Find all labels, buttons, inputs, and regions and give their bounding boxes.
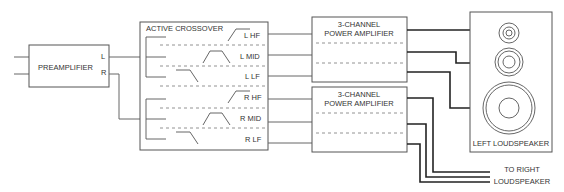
preamplifier-block: PREAMPLIFIER L R <box>29 45 109 87</box>
left-loudspeaker: LEFT LOUDSPEAKER <box>470 12 552 152</box>
amp2-line1: 3-CHANNEL <box>338 90 381 99</box>
crossover-out-rmid: R MID <box>240 114 262 123</box>
amp2-line2: POWER AMPLIFIER <box>324 99 394 108</box>
crossover-out-llf: L LF <box>245 72 260 81</box>
crossover-out-lmid: L MID <box>240 52 260 61</box>
crossover-to-amp-wires <box>268 34 312 143</box>
crossover-out-rhf: R HF <box>244 93 262 102</box>
loudspeaker-label: LEFT LOUDSPEAKER <box>473 139 550 148</box>
right-loudspeaker-note: TO RIGHT LOUDSPEAKER <box>494 165 551 186</box>
speaker-wires-left <box>407 30 470 108</box>
note-line1: TO RIGHT <box>504 165 540 174</box>
crossover-title: ACTIVE CROSSOVER <box>146 24 224 33</box>
power-amplifier-right: 3-CHANNEL POWER AMPLIFIER <box>312 87 407 152</box>
active-crossover-block: ACTIVE CROSSOVER L HF L MID L LF R HF R … <box>140 22 268 150</box>
crossover-out-rlf: R LF <box>245 135 262 144</box>
woofer-driver-icon <box>483 82 535 134</box>
preamplifier-label: PREAMPLIFIER <box>38 63 94 72</box>
amp1-line2: POWER AMPLIFIER <box>324 29 394 38</box>
crossover-out-lhf: L HF <box>244 31 260 40</box>
midrange-driver-icon <box>495 48 523 76</box>
preamp-out-left: L <box>101 52 105 61</box>
signal-chain-diagram: PREAMPLIFIER L R ACTIVE CROSSOVER <box>0 0 564 192</box>
power-amplifier-left: 3-CHANNEL POWER AMPLIFIER <box>312 17 407 82</box>
note-line2: LOUDSPEAKER <box>494 177 551 186</box>
amp1-line1: 3-CHANNEL <box>338 20 381 29</box>
preamp-out-right: R <box>101 68 107 77</box>
tweeter-icon <box>499 23 519 43</box>
input-lines <box>14 57 30 74</box>
